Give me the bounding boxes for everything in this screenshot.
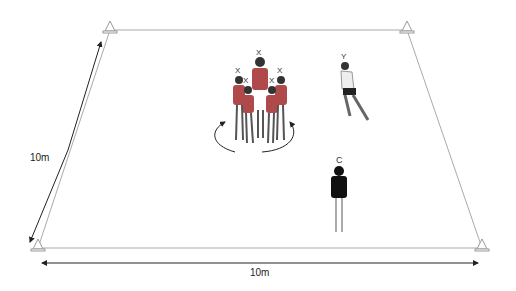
length-label: 10m <box>250 267 269 278</box>
marker-x: X <box>235 66 240 75</box>
marker-x: X <box>243 76 248 85</box>
coach-figure <box>331 166 347 232</box>
width-label: 10m <box>30 152 49 163</box>
width-arrow <box>68 42 101 150</box>
marker-x: X <box>277 66 282 75</box>
marker-c: C <box>336 155 343 165</box>
rotation-arrow-left <box>215 122 235 152</box>
drill-diagram: 10m 10m X X X X X Y C <box>0 0 516 291</box>
marker-x: X <box>256 48 261 57</box>
marker-y: Y <box>341 52 346 61</box>
field-svg <box>0 0 516 291</box>
runner-figure <box>341 62 368 120</box>
marker-x: X <box>269 76 274 85</box>
